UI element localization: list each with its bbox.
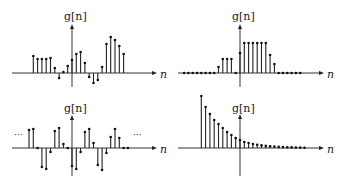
stem-marker (45, 168, 48, 171)
stem-marker (122, 147, 125, 150)
stem-marker (269, 145, 272, 148)
x-axis-label-2: n (327, 69, 334, 80)
stem-marker (71, 165, 74, 168)
stem-marker (222, 127, 225, 130)
stem-marker (209, 113, 212, 116)
ellipsis-right: ··· (133, 131, 142, 140)
stem-marker (75, 168, 78, 171)
stem-marker (213, 72, 216, 75)
stem-marker (299, 72, 302, 75)
stem-marker (49, 57, 52, 60)
y-axis-label-2: g[n] (232, 11, 255, 22)
stem-marker (290, 72, 293, 75)
stem-marker (239, 52, 242, 55)
stem-marker (28, 129, 31, 132)
stem-marker (183, 72, 186, 75)
stem-marker (58, 77, 61, 80)
stem-marker (41, 166, 44, 169)
y-axis-arrow-icon (70, 115, 74, 120)
ellipsis-left: ··· (14, 131, 23, 140)
stem-marker (196, 72, 199, 75)
stem-marker (122, 53, 125, 56)
stem-marker (36, 147, 39, 150)
stem-marker (62, 143, 65, 146)
stem-marker (118, 45, 121, 48)
stem-marker (32, 55, 35, 58)
stem-marker (54, 130, 57, 133)
stem-marker (252, 143, 255, 146)
stem-marker (101, 66, 104, 69)
stem-marker (109, 36, 112, 39)
stem-marker (109, 136, 112, 139)
stem-marker (118, 137, 121, 140)
y-axis-label-1: g[n] (64, 11, 87, 22)
stem-marker (234, 137, 237, 140)
stem-marker (269, 54, 272, 57)
stem-marker (66, 65, 69, 68)
stem-marker (273, 63, 276, 66)
stem-marker (234, 72, 237, 75)
stem-marker (105, 43, 108, 46)
stem-marker (105, 152, 108, 155)
stem-marker (97, 79, 100, 82)
stem-marker (222, 58, 225, 61)
stem-marker (204, 72, 207, 75)
y-axis-label-3: g[n] (64, 103, 87, 114)
stem-marker (32, 128, 35, 131)
x-axis-label-3: n (160, 144, 167, 155)
stem-marker (58, 127, 61, 130)
stem-marker (92, 142, 95, 145)
stem-marker (282, 72, 285, 75)
stem-marker (200, 95, 203, 98)
x-axis-label-4: n (327, 144, 334, 155)
stem-marker (252, 42, 255, 45)
stem-marker (256, 42, 259, 45)
stem-marker (209, 72, 212, 75)
stem-marker (239, 139, 242, 142)
stem-marker (277, 146, 280, 149)
stem-marker (127, 147, 130, 150)
stem-marker (217, 123, 220, 126)
stem-marker (101, 169, 104, 172)
stem-marker (247, 42, 250, 45)
stem-marker (45, 58, 48, 61)
stem-marker (41, 58, 44, 61)
stem-marker (260, 144, 263, 147)
stem-marker (265, 42, 268, 45)
stem-marker (75, 53, 78, 56)
stem-marker (71, 59, 74, 62)
x-axis-arrow-icon (152, 71, 157, 75)
stem-marker (286, 72, 289, 75)
stem-marker (260, 42, 263, 45)
stem-marker (286, 146, 289, 149)
stem-marker (217, 66, 220, 69)
stem-marker (54, 67, 57, 70)
stem-marker (114, 39, 117, 42)
stem-marker (213, 119, 216, 122)
stem-marker (88, 76, 91, 79)
stem-marker (256, 144, 259, 147)
stem-marker (299, 146, 302, 149)
stem-marker (243, 141, 246, 144)
stem-marker (265, 145, 268, 148)
stem-marker (295, 72, 298, 75)
stem-marker (290, 146, 293, 149)
stem-marker (92, 82, 95, 85)
stem-marker (62, 71, 65, 74)
stem-marker (79, 151, 82, 154)
stem-marker (273, 145, 276, 148)
stem-marker (230, 134, 233, 137)
stem-marker (66, 147, 69, 150)
stem-marker (49, 151, 52, 154)
stem-marker (79, 51, 82, 54)
x-axis-arrow-icon (319, 146, 324, 150)
stem-marker (114, 128, 117, 131)
stem-marker (226, 58, 229, 61)
stem-marker (84, 62, 87, 65)
y-axis-arrow-icon (238, 24, 242, 29)
stem-marker (200, 72, 203, 75)
stem-marker (226, 131, 229, 134)
y-axis-label-4: g[n] (232, 103, 255, 114)
stem-plots (0, 0, 337, 186)
stem-marker (277, 72, 280, 75)
